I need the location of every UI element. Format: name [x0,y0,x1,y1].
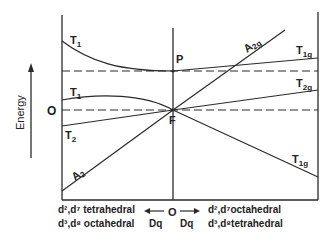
term-label-t1-upper: T1 [70,34,82,49]
right-arrow-icon [180,208,200,214]
point-f-marker [172,109,175,112]
term-label-t1g-upper: T1g [296,44,312,59]
t2g-line [173,90,318,110]
t1g-lower-line [173,110,318,177]
energy-axis-label: Energy [14,95,26,130]
right-config-line1: d²,d⁷octahedral [208,204,281,215]
point-f-label: F [169,114,176,126]
point-p-marker [172,70,175,73]
left-config-line2: d³,d⁸ octahedral [58,218,135,229]
t1g-upper-line [173,58,318,71]
right-config-line2: d³,d⁸tetrahedral [208,218,283,229]
dq-left-label: Dq [149,218,162,229]
diagram-frame [62,12,318,200]
orgel-diagram: Energy O P F T1 T1 T2 A2 A2g T1g T2g T1g… [0,0,332,242]
t2-line [62,110,173,126]
center-zero-label: O [168,206,177,218]
dashed-reference-lines [62,71,318,110]
zero-label: O [47,104,56,118]
left-arrow-icon [144,208,164,214]
term-label-a2: A2 [69,165,88,184]
term-label-t2: T2 [65,129,77,144]
dq-right-label: Dq [180,218,193,229]
term-label-t2g: T2g [296,77,312,92]
left-config-line1: d²,d⁷ tetrahedral [58,204,135,215]
point-p-label: P [176,53,183,65]
energy-axis-arrow [28,63,34,158]
